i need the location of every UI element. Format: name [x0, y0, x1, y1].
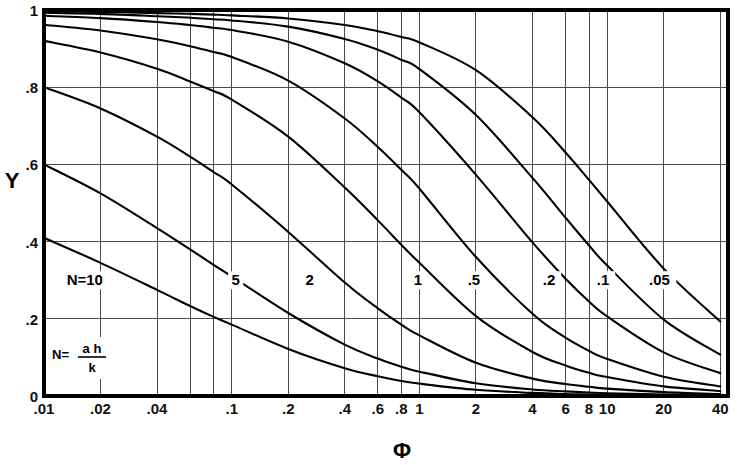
x-tick-label: 4: [528, 400, 537, 417]
chart-container: .01.02.04.1.2.4.6.812468102040 0.2.4.6.8…: [0, 0, 739, 465]
y-tick-label: .2: [25, 311, 38, 328]
curve-label-6: .2: [543, 271, 556, 288]
x-tick-label: .4: [339, 400, 352, 417]
formula-lhs: N=: [52, 347, 69, 362]
x-tick-label: 20: [655, 400, 672, 417]
x-tick-label: .8: [395, 400, 408, 417]
x-tick-label: 6: [561, 400, 569, 417]
x-tick-label: .2: [282, 400, 295, 417]
y-tick-label: .4: [25, 234, 38, 251]
curve-label-7: .1: [597, 271, 610, 288]
y-tick-label: .6: [25, 156, 38, 173]
formula-numerator: a h: [83, 341, 102, 356]
x-tick-label: .1: [225, 400, 238, 417]
curve-label-8: .05: [649, 271, 670, 288]
x-tick-label: 2: [472, 400, 480, 417]
curve-label-3: 2: [305, 271, 313, 288]
x-tick-label: .6: [372, 400, 385, 417]
x-axis-title: Φ: [393, 438, 411, 463]
x-tick-label: .02: [90, 400, 111, 417]
x-tick-label: 1: [415, 400, 423, 417]
formula-denominator: k: [88, 360, 96, 375]
x-tick-label: 8: [585, 400, 593, 417]
curve-label-1: N=10: [67, 271, 103, 288]
curve-label-5: .5: [468, 271, 481, 288]
y-tick-label: .8: [25, 79, 38, 96]
y-axis-title: Y: [5, 168, 20, 193]
curve-label-2: 5: [232, 271, 240, 288]
y-tick-label: 1: [30, 2, 38, 19]
y-vs-phi-chart: .01.02.04.1.2.4.6.812468102040 0.2.4.6.8…: [0, 0, 739, 465]
curve-label-4: 1: [414, 271, 422, 288]
x-tick-label: 10: [599, 400, 616, 417]
formula-annotation: N= a h k: [48, 337, 114, 379]
x-tick-label: 40: [712, 400, 729, 417]
y-tick-label: 0: [30, 388, 38, 405]
x-tick-label: .04: [147, 400, 169, 417]
